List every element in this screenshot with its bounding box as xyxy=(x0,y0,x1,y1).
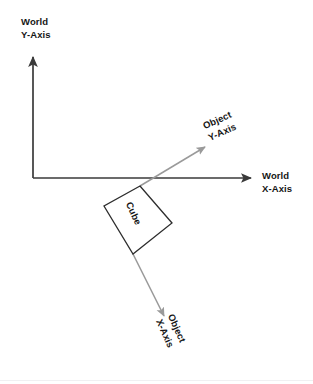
object-y-axis-line xyxy=(140,147,205,186)
bottom-divider xyxy=(0,380,313,381)
world-x-axis-label: World X-Axis xyxy=(262,170,292,195)
object-x-axis-line xyxy=(133,254,164,316)
world-y-axis-label: World Y-Axis xyxy=(21,16,51,41)
diagram-canvas: World Y-Axis World X-Axis Object Y-Axis … xyxy=(0,0,313,384)
